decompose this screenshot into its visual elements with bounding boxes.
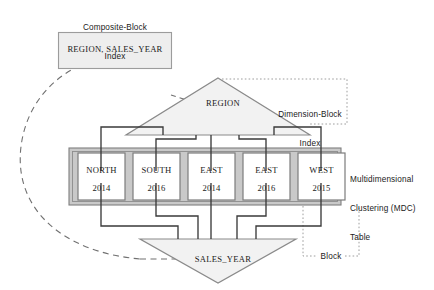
composite-index-box-text: REGION, SALES_YEAR	[58, 44, 172, 54]
block-label-year-0: 2014	[78, 183, 125, 193]
block-callout-label: Block	[310, 252, 352, 262]
mdc-table-label-line3: Table	[350, 233, 434, 243]
block-label-region-0: NORTH	[78, 165, 125, 175]
block-label-region-1: SOUTH	[133, 165, 180, 175]
composite-block-index-label-line1: Composite-Block	[58, 23, 172, 33]
dimension-block-index-label-line1: Dimension-Block	[249, 110, 371, 120]
mdc-table-label: Multidimensional Clustering (MDC) Table	[350, 156, 434, 262]
block-callout-bracket	[303, 206, 317, 256]
block-label-region-2: EAST	[188, 165, 235, 175]
block-label-year-1: 2016	[133, 183, 180, 193]
composite-block-index-label: Composite-Block Index	[58, 4, 172, 81]
mdc-table-label-line2: Clustering (MDC)	[350, 204, 434, 214]
mdc-table-label-line1: Multidimensional	[350, 175, 434, 185]
block-label-year-3: 2016	[243, 183, 290, 193]
region-triangle-label: REGION	[190, 98, 256, 108]
diagram-canvas: Composite-Block Index REGION, SALES_YEAR…	[0, 0, 434, 290]
dimension-block-index-label-line2: Index	[249, 139, 371, 149]
block-label-year-2: 2014	[188, 183, 235, 193]
sales-year-triangle-label: SALES_YEAR	[182, 254, 264, 264]
block-label-region-3: EAST	[243, 165, 290, 175]
block-label-region-4: WEST	[298, 165, 345, 175]
block-label-year-4: 2015	[298, 183, 345, 193]
